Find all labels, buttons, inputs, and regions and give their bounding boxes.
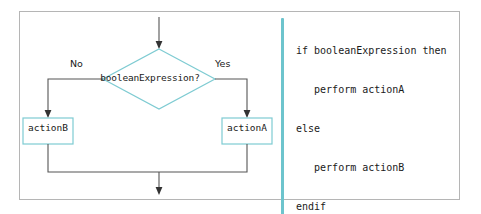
false-branch-arrowhead [45, 110, 52, 118]
pseudocode-accent-rule [281, 18, 284, 214]
merge-connector-true [159, 144, 247, 172]
pseudocode-block: if booleanExpression then perform action… [296, 18, 447, 214]
true-branch-connector [215, 79, 247, 112]
flowchart-figure: booleanExpression? No Yes actionB action… [0, 0, 481, 214]
false-branch-connector [48, 79, 103, 112]
pseudocode-line: if booleanExpression then [296, 44, 447, 57]
merge-connector-false [48, 144, 159, 172]
pseudocode-line: perform actionB [296, 161, 447, 174]
process-box-true-label: actionA [221, 122, 273, 133]
pseudocode-line: else [296, 122, 447, 135]
process-box-false-label: actionB [22, 122, 74, 133]
entry-arrowhead [156, 41, 163, 49]
exit-arrowhead [156, 187, 163, 195]
true-branch-label: Yes [215, 58, 230, 69]
false-branch-label: No [70, 58, 83, 69]
pseudocode-panel: if booleanExpression then perform action… [281, 18, 447, 214]
pseudocode-line: endif [296, 200, 447, 213]
true-branch-arrowhead [244, 110, 251, 118]
pseudocode-line: perform actionA [296, 83, 447, 96]
decision-label: booleanExpression? [93, 72, 207, 83]
